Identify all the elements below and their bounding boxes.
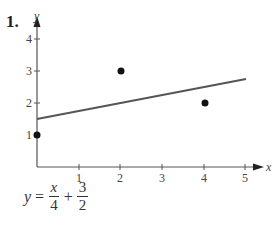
fraction-denominator: 2: [77, 197, 89, 213]
fraction-numerator: x: [49, 180, 60, 197]
x-axis-label: x: [265, 160, 272, 174]
x-axis-arrow-icon: [253, 164, 264, 171]
y-tick-label: 2: [26, 96, 32, 110]
equation-plus: +: [64, 188, 73, 206]
fraction-numerator: 3: [77, 180, 89, 197]
y-tick-label: 1: [26, 128, 32, 142]
data-point: [202, 100, 209, 107]
fraction-3-over-2: 3 2: [77, 180, 89, 213]
y-tick-label: 3: [26, 64, 32, 78]
regression-line: [37, 79, 246, 119]
data-point: [34, 132, 41, 139]
x-tick-label: 2: [117, 171, 123, 185]
x-tick-label: 4: [201, 171, 207, 185]
x-tick-label: 5: [242, 171, 248, 185]
y-axis-label: y: [33, 9, 40, 23]
data-point: [118, 68, 125, 75]
x-tick-label: 3: [159, 171, 165, 185]
y-tick-label: 4: [26, 32, 32, 46]
fraction-x-over-4: x 4: [48, 180, 60, 213]
equation-lhs: y: [24, 188, 31, 206]
fraction-denominator: 4: [48, 197, 60, 213]
equation-equals: =: [35, 188, 44, 206]
regression-equation: y = x 4 + 3 2: [24, 180, 88, 213]
